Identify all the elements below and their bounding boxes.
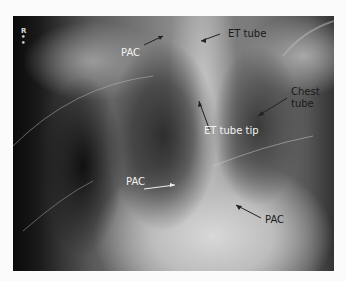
- label-chest-tube-line2: tube: [291, 98, 314, 109]
- label-pac-bottom: PAC: [265, 214, 284, 225]
- label-pac-middle: PAC: [126, 176, 145, 187]
- chest-xray-image: R•• PAC ET tube Chest tube ET tube tip P…: [13, 16, 334, 271]
- label-et-tube-tip: ET tube tip: [204, 125, 259, 136]
- side-marker: R••: [21, 28, 26, 46]
- side-marker-letter: R: [21, 27, 26, 35]
- label-pac-top: PAC: [121, 47, 140, 58]
- annotation-arrows: [13, 16, 334, 271]
- label-chest-tube: Chest tube: [291, 86, 320, 110]
- label-chest-tube-line1: Chest: [291, 86, 320, 97]
- label-et-tube: ET tube: [228, 28, 266, 39]
